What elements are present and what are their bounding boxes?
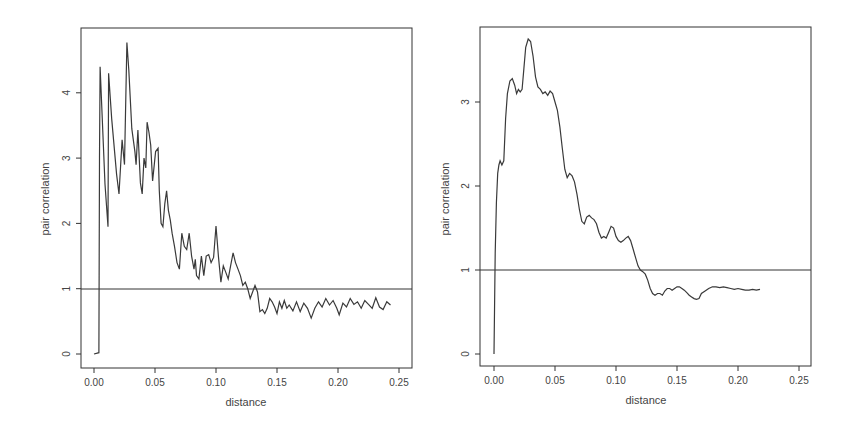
x-axis: 0.000.050.100.150.200.25 <box>84 368 409 388</box>
x-tick-label: 0.00 <box>484 375 504 386</box>
x-tick-label: 0.20 <box>328 377 348 388</box>
y-axis-label: pair correlation <box>439 163 451 236</box>
x-tick-label: 0.10 <box>206 377 226 388</box>
x-tick-label: 0.10 <box>606 375 626 386</box>
x-tick-label: 0.00 <box>84 377 104 388</box>
y-tick-label: 3 <box>61 155 72 161</box>
x-axis-label: distance <box>226 396 267 408</box>
y-tick-label: 4 <box>61 90 72 96</box>
x-tick-label: 0.20 <box>728 375 748 386</box>
y-tick-label: 0 <box>460 351 471 357</box>
x-tick-label: 0.05 <box>545 375 565 386</box>
y-tick-label: 1 <box>460 267 471 273</box>
y-tick-label: 1 <box>61 285 72 291</box>
x-axis: 0.000.050.100.150.200.25 <box>484 366 809 386</box>
y-axis: 01234 <box>61 90 81 357</box>
plot-frame <box>480 27 811 366</box>
figure: 01234 0.000.050.100.150.200.25 distance … <box>0 0 847 425</box>
x-tick-label: 0.15 <box>667 375 687 386</box>
pair-correlation-curve <box>94 43 391 355</box>
x-tick-label: 0.15 <box>267 377 287 388</box>
y-tick-label: 2 <box>61 220 72 226</box>
x-tick-label: 0.25 <box>789 375 809 386</box>
plot-frame <box>81 28 412 368</box>
x-axis-label: distance <box>626 394 667 406</box>
y-axis-label: pair correlation <box>39 163 51 236</box>
x-tick-label: 0.25 <box>389 377 409 388</box>
x-tick-label: 0.05 <box>145 377 165 388</box>
pair-correlation-curve-smoothed <box>494 39 760 354</box>
y-tick-label: 0 <box>61 351 72 357</box>
y-axis: 0123 <box>460 99 480 357</box>
left-panel: 01234 0.000.050.100.150.200.25 distance … <box>39 28 412 408</box>
y-tick-label: 2 <box>460 183 471 189</box>
y-tick-label: 3 <box>460 99 471 105</box>
right-panel: 0123 0.000.050.100.150.200.25 distance p… <box>439 27 811 406</box>
